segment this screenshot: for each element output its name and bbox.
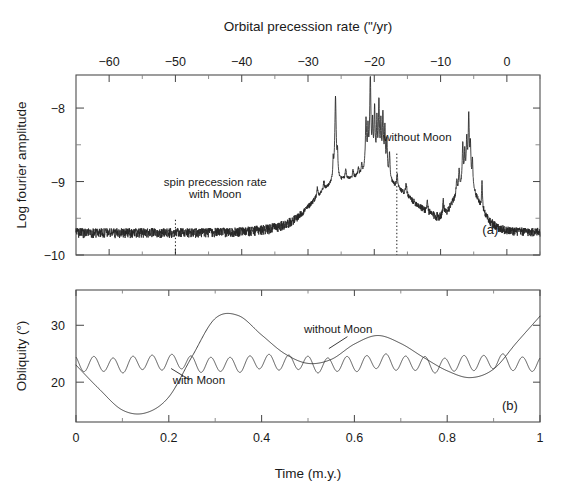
tick-label: 0.6 [346, 431, 363, 445]
tick-label: −60 [99, 55, 120, 69]
tick-label: −20 [364, 55, 385, 69]
panel-b: 00.20.40.60.813020 Obliquity (°) with Mo… [14, 290, 544, 445]
tick-label: −40 [231, 55, 252, 69]
panel-a-frame [76, 75, 540, 255]
tick-label: 1 [537, 431, 544, 445]
panel-b-ylabel: Obliquity (°) [14, 321, 29, 392]
tick-label: −10 [44, 249, 65, 263]
bottom-axis-title: Time (m.y.) [275, 466, 342, 481]
annotation-spin-precession-line1: spin precession rate [164, 176, 267, 188]
panel-b-label: (b) [502, 398, 518, 413]
tick-label: 20 [51, 376, 65, 390]
tick-label: 0.4 [253, 431, 270, 445]
fourier-spectrum-curve [76, 76, 540, 238]
panel-a: −60−50−40−30−20−100−8−9−10 Log fourier a… [14, 55, 540, 263]
panel-a-top-ticks [109, 75, 540, 255]
top-axis-title: Orbital precession rate ("/yr) [224, 19, 392, 34]
tick-label: 0.2 [160, 431, 177, 445]
tick-label: −9 [51, 176, 65, 190]
panel-b-tick-labels: 00.20.40.60.813020 [51, 319, 543, 445]
tick-label: 0.8 [439, 431, 456, 445]
figure-container: Orbital precession rate ("/yr) −60−50−40… [0, 0, 564, 491]
panel-a-dotted-lines [175, 154, 396, 255]
annotation-with-moon-b: with Moon [172, 374, 225, 386]
panel-a-label: (a) [482, 222, 498, 237]
tick-label: 30 [51, 319, 65, 333]
annotation-without-moon-a: without Moon [382, 131, 451, 143]
tick-label: −10 [430, 55, 451, 69]
tick-label: 0 [503, 55, 510, 69]
tick-label: 0 [73, 431, 80, 445]
tick-label: −50 [165, 55, 186, 69]
tick-label: −30 [297, 55, 318, 69]
annotation-without-moon-b: without Moon [303, 323, 372, 335]
annotation-spin-precession-line2: with Moon [188, 188, 241, 200]
leader-line-without-moon [329, 337, 348, 349]
tick-label: −8 [51, 102, 65, 116]
panel-a-ylabel: Log fourier amplitude [14, 102, 29, 229]
figure-svg: Orbital precession rate ("/yr) −60−50−40… [0, 0, 564, 491]
